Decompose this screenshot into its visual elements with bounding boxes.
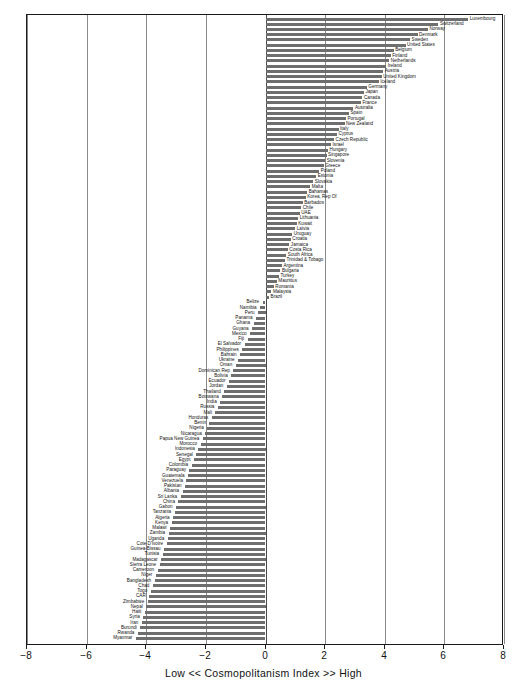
bar bbox=[188, 474, 266, 477]
bar-row: Jordan bbox=[27, 385, 502, 389]
bar-row: Burundi bbox=[27, 626, 502, 630]
bar-row: Rwanda bbox=[27, 632, 502, 636]
bar bbox=[189, 469, 265, 472]
bar bbox=[146, 605, 265, 608]
bar bbox=[266, 107, 354, 110]
bar bbox=[236, 364, 266, 367]
bar bbox=[263, 301, 266, 304]
bar bbox=[227, 385, 266, 388]
bar-row: Portugal bbox=[27, 117, 502, 121]
bar bbox=[196, 453, 265, 456]
bar bbox=[266, 122, 345, 125]
bar bbox=[266, 259, 285, 262]
bar-row: Poland bbox=[27, 170, 502, 174]
bar-row: Nicaragua bbox=[27, 432, 502, 436]
bar-row: Mali bbox=[27, 411, 502, 415]
bar bbox=[155, 579, 266, 582]
bar-row: Senegal bbox=[27, 453, 502, 457]
bar-row: Romania bbox=[27, 285, 502, 289]
bar-row: Lithuania bbox=[27, 217, 502, 221]
bar-row: Korea, Rep Of bbox=[27, 196, 502, 200]
bar-row: Myanmar bbox=[27, 637, 502, 641]
bar bbox=[156, 574, 266, 577]
bar-row: Nigeria bbox=[27, 427, 502, 431]
bar bbox=[266, 54, 391, 57]
bar-row: Czech Republic bbox=[27, 138, 502, 142]
bar-row: Colombia bbox=[27, 464, 502, 468]
bar-category-label: Luxembourg bbox=[470, 17, 496, 22]
bar-row: Namibia bbox=[27, 306, 502, 310]
bar-row: Barbados bbox=[27, 201, 502, 205]
bar bbox=[242, 348, 265, 351]
bar-row: Germany bbox=[27, 86, 502, 90]
bar bbox=[229, 380, 265, 383]
bar-row: Venezuela bbox=[27, 479, 502, 483]
bar bbox=[220, 401, 265, 404]
bar bbox=[161, 558, 265, 561]
bar-row: Netherlands bbox=[27, 59, 502, 63]
bar bbox=[266, 254, 287, 257]
bar-category-label: Brazil bbox=[271, 295, 283, 300]
bar bbox=[198, 448, 265, 451]
bar-row: Turkey bbox=[27, 275, 502, 279]
x-tick-label: −6 bbox=[80, 650, 91, 661]
bar-row: Panama bbox=[27, 317, 502, 321]
bar bbox=[266, 80, 379, 83]
bar-row: Chad bbox=[27, 584, 502, 588]
x-axis: −8−6−4−202468 bbox=[26, 645, 503, 665]
bar-row: New Zealand bbox=[27, 122, 502, 126]
bar bbox=[153, 584, 266, 587]
bar-row: Bangladesh bbox=[27, 579, 502, 583]
bar bbox=[256, 317, 266, 320]
bar bbox=[183, 490, 266, 493]
bar-row: El Salvador bbox=[27, 343, 502, 347]
bar-row: United Kingdom bbox=[27, 75, 502, 79]
bar-row: Guyana bbox=[27, 327, 502, 331]
bar bbox=[266, 290, 272, 293]
bar bbox=[233, 369, 265, 372]
bar bbox=[266, 175, 317, 178]
bar-row: Russia bbox=[27, 406, 502, 410]
bar bbox=[266, 164, 324, 167]
gridline-8 bbox=[504, 15, 505, 644]
bar-row: Cote D'Ivoire bbox=[27, 542, 502, 546]
bar bbox=[207, 427, 265, 430]
bar bbox=[266, 233, 293, 236]
bar bbox=[266, 154, 327, 157]
bar bbox=[231, 374, 265, 377]
x-tick-mark bbox=[145, 645, 146, 649]
bar bbox=[258, 311, 265, 314]
bar bbox=[143, 616, 265, 619]
bar-row: Canada bbox=[27, 96, 502, 100]
bar bbox=[266, 269, 281, 272]
bar-row: Australia bbox=[27, 107, 502, 111]
bar bbox=[170, 527, 265, 530]
x-tick-mark bbox=[503, 645, 504, 649]
bar bbox=[266, 238, 291, 241]
bar-row: Sierra Leone bbox=[27, 563, 502, 567]
bar-row: Bahrain bbox=[27, 353, 502, 357]
bar-row: Sri Lanka bbox=[27, 495, 502, 499]
bar bbox=[266, 128, 339, 131]
bar bbox=[266, 86, 367, 89]
x-axis-title: Low << Cosmopolitanism Index >> High bbox=[0, 667, 527, 679]
bar-row: Belgium bbox=[27, 49, 502, 53]
bar-row: Tanzania bbox=[27, 511, 502, 515]
bar-row: Oman bbox=[27, 364, 502, 368]
bar-row: Ecuador bbox=[27, 380, 502, 384]
bar-row: Malaysia bbox=[27, 290, 502, 294]
bar-row: Bahamas bbox=[27, 191, 502, 195]
bar-row: Nepal bbox=[27, 605, 502, 609]
bar-row: Greece bbox=[27, 164, 502, 168]
bar-row: Italy bbox=[27, 128, 502, 132]
bar bbox=[266, 38, 411, 41]
x-tick-label: 8 bbox=[500, 650, 506, 661]
bar bbox=[266, 196, 306, 199]
bar bbox=[266, 212, 300, 215]
bar bbox=[222, 395, 265, 398]
bar bbox=[266, 217, 299, 220]
x-tick-mark bbox=[265, 645, 266, 649]
bar-row: Belize bbox=[27, 301, 502, 305]
bar bbox=[266, 275, 279, 278]
bar-row: Benin bbox=[27, 422, 502, 426]
